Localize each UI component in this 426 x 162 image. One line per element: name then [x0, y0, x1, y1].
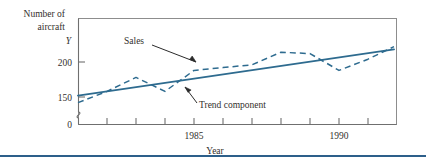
chart-figure: 200 150 0 1985 1990 Number of aircraft Y…	[0, 0, 426, 162]
annotation-label-sales: Sales	[124, 36, 144, 46]
y-tick-label-0: 0	[67, 120, 72, 130]
y-axis-title-line1: Number of	[24, 9, 66, 19]
x-tick-label-1990: 1990	[330, 131, 349, 141]
y-tick-label-200: 200	[58, 58, 73, 68]
y-axis-title-line2: aircraft	[38, 22, 66, 32]
y-axis-variable-label: Y	[66, 36, 73, 46]
chart-canvas: 200 150 0 1985 1990 Number of aircraft Y…	[0, 0, 426, 162]
bottom-divider	[0, 155, 426, 157]
annotation-label-trend: Trend component	[199, 100, 266, 110]
x-tick-label-1985: 1985	[185, 131, 204, 141]
y-tick-label-150: 150	[58, 93, 73, 103]
